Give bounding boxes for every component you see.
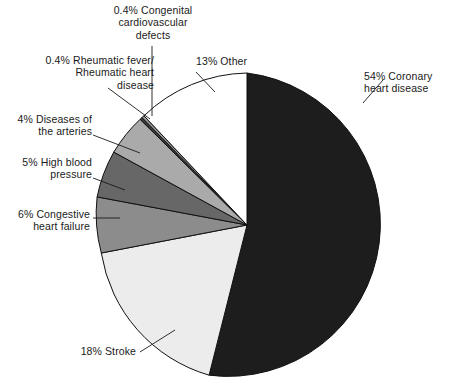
label-coronary-heart-disease: 54% Coronary heart disease — [364, 70, 450, 95]
label-high-blood-pressure: 5% High blood pressure — [0, 156, 92, 181]
label-congenital-cardiovascular-defects: 0.4% Congenital cardiovascular defects — [58, 4, 248, 41]
label-rheumatic-fever: 0.4% Rheumatic fever/ Rheumatic heart di… — [4, 54, 154, 91]
label-stroke: 18% Stroke — [30, 345, 136, 357]
label-congestive-heart-failure: 6% Congestive heart failure — [0, 208, 90, 233]
label-diseases-of-arteries: 4% Diseases of the arteries — [0, 113, 92, 138]
leader-line-rheumatic — [108, 88, 150, 119]
pie-chart-figure: 0.4% Congenital cardiovascular defects 0… — [0, 0, 450, 384]
pie-slices — [96, 73, 380, 376]
label-other: 13% Other — [196, 55, 306, 67]
